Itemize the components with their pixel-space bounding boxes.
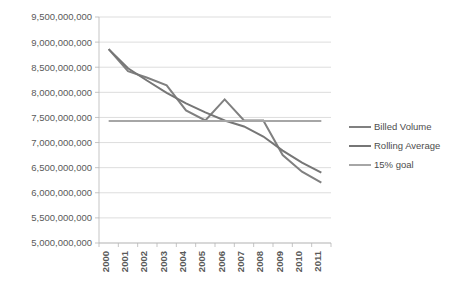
y-tick-label: 7,500,000,000 <box>31 112 92 123</box>
x-tick-label-2001: 2001 <box>119 250 130 272</box>
chart-container: 5,000,000,0005,500,000,0006,000,000,0006… <box>0 0 464 296</box>
x-axis-tick-marks <box>99 243 331 247</box>
y-tick-label: 6,000,000,000 <box>31 187 92 198</box>
x-tick-label-2005: 2005 <box>196 250 207 272</box>
legend-label-2: 15% goal <box>374 159 414 170</box>
x-tick-label-2000: 2000 <box>100 251 111 272</box>
x-tick-label-2011: 2011 <box>312 250 323 271</box>
legend-label-1: Rolling Average <box>374 140 440 151</box>
y-tick-label: 9,500,000,000 <box>31 11 92 22</box>
y-tick-label: 8,500,000,000 <box>31 62 92 73</box>
x-tick-label-2002: 2002 <box>138 251 149 272</box>
x-tick-label-2010: 2010 <box>293 251 304 272</box>
axes-group <box>99 17 331 243</box>
x-tick-label-2007: 2007 <box>235 251 246 272</box>
y-axis-tick-labels: 5,000,000,0005,500,000,0006,000,000,0006… <box>31 11 99 248</box>
x-tick-label-2003: 2003 <box>158 251 169 272</box>
y-tick-label: 6,500,000,000 <box>31 162 92 173</box>
y-tick-label: 5,500,000,000 <box>31 212 92 223</box>
legend-label-0: Billed Volume <box>374 121 432 132</box>
data-series-group <box>109 49 322 183</box>
chart-legend: Billed VolumeRolling Average15% goal <box>349 121 440 170</box>
x-tick-label-2008: 2008 <box>254 251 265 272</box>
x-tick-label-2009: 2009 <box>274 251 285 272</box>
y-tick-label: 9,000,000,000 <box>31 37 92 48</box>
x-tick-label-2004: 2004 <box>177 250 188 272</box>
line-chart: 5,000,000,0005,500,000,0006,000,000,0006… <box>0 0 464 296</box>
x-axis-tick-labels: 2000200120022003200420052006200720082009… <box>100 250 324 272</box>
x-tick-label-2006: 2006 <box>216 251 227 272</box>
y-tick-label: 8,000,000,000 <box>31 87 92 98</box>
y-tick-label: 5,000,000,000 <box>31 237 92 248</box>
gridlines-group <box>99 17 331 243</box>
y-tick-label: 7,000,000,000 <box>31 137 92 148</box>
